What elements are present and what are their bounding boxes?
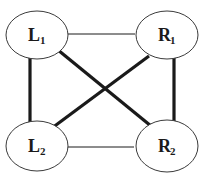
node-subscript: 2 <box>40 145 46 157</box>
node-label: L <box>28 136 40 156</box>
node-r1: R1 <box>136 11 198 59</box>
node-l2: L2 <box>6 121 68 171</box>
node-r2: R2 <box>136 120 198 172</box>
node-subscript: 1 <box>170 34 176 46</box>
node-subscript: 2 <box>170 145 176 157</box>
node-label: L <box>28 25 40 45</box>
graph-diagram: L1R1L2R2 <box>0 0 205 176</box>
node-l1: L1 <box>6 11 68 59</box>
node-subscript: 1 <box>40 34 46 46</box>
edge-r1-l2 <box>52 56 149 128</box>
